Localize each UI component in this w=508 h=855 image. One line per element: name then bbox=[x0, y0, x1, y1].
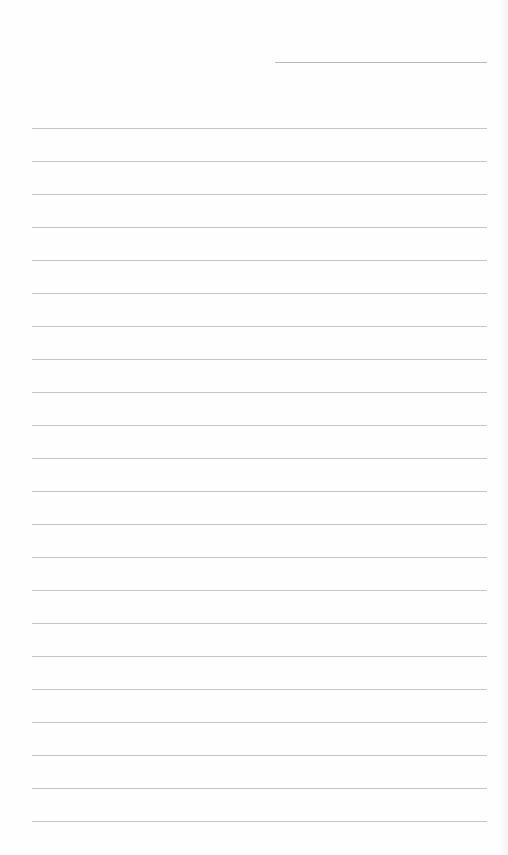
ruled-line bbox=[32, 227, 487, 228]
page-edge-shadow bbox=[500, 0, 508, 855]
ruled-line bbox=[32, 722, 487, 723]
ruled-line bbox=[32, 425, 487, 426]
ruled-line bbox=[32, 161, 487, 162]
ruled-line bbox=[32, 755, 487, 756]
ruled-line bbox=[32, 194, 487, 195]
ruled-line bbox=[32, 458, 487, 459]
ruled-line bbox=[32, 326, 487, 327]
ruled-line bbox=[32, 788, 487, 789]
lined-paper-page bbox=[0, 0, 508, 855]
header-field-line bbox=[275, 62, 487, 63]
ruled-line bbox=[32, 656, 487, 657]
ruled-line bbox=[32, 524, 487, 525]
ruled-line bbox=[32, 359, 487, 360]
ruled-line bbox=[32, 260, 487, 261]
ruled-line bbox=[32, 557, 487, 558]
ruled-line bbox=[32, 293, 487, 294]
ruled-line bbox=[32, 590, 487, 591]
ruled-line bbox=[32, 128, 487, 129]
ruled-line bbox=[32, 821, 487, 822]
ruled-line bbox=[32, 623, 487, 624]
ruled-line bbox=[32, 392, 487, 393]
ruled-line bbox=[32, 689, 487, 690]
ruled-line bbox=[32, 491, 487, 492]
